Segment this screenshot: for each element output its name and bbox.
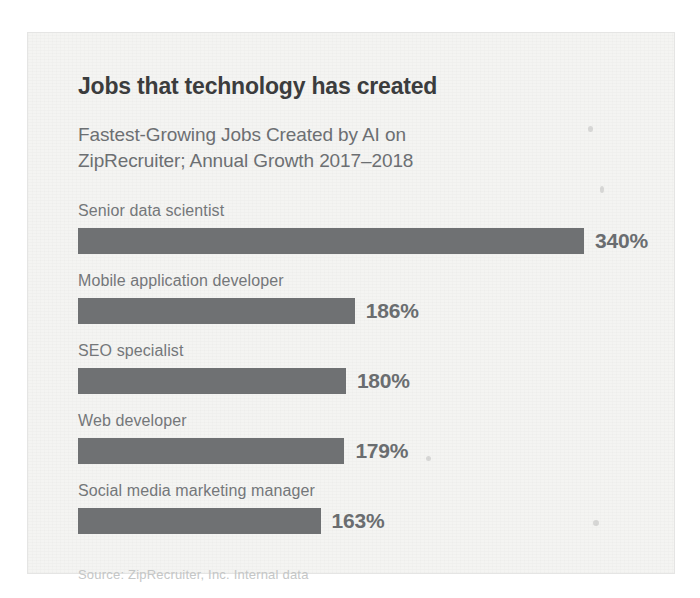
bar-track: 186%: [78, 298, 688, 324]
bar-category-label: Web developer: [78, 412, 688, 430]
bar-fill: [78, 368, 346, 394]
bar-category-label: SEO specialist: [78, 342, 688, 360]
bar-fill: [78, 228, 584, 254]
chart-subtitle-line-1: Fastest-Growing Jobs Created by AI on: [78, 122, 478, 148]
bar-track: 179%: [78, 438, 688, 464]
bar-row: SEO specialist 180%: [78, 342, 688, 412]
bar-chart-plot-area: Senior data scientist 340% Mobile applic…: [78, 202, 688, 552]
bar-category-label: Mobile application developer: [78, 272, 688, 290]
bar-track: 180%: [78, 368, 688, 394]
bar-category-label: Social media marketing manager: [78, 482, 688, 500]
bar-fill: [78, 438, 344, 464]
bar-track: 340%: [78, 228, 688, 254]
bar-value-label: 180%: [357, 369, 410, 393]
bar-value-label: 163%: [332, 509, 385, 533]
bar-row: Mobile application developer 186%: [78, 272, 688, 342]
bar-value-label: 179%: [355, 439, 408, 463]
bar-fill: [78, 298, 355, 324]
chart-content: Jobs that technology has created Fastest…: [78, 73, 688, 593]
chart-subtitle: Fastest-Growing Jobs Created by AI on Zi…: [78, 122, 478, 174]
chart-subtitle-line-2: ZipRecruiter; Annual Growth 2017–2018: [78, 148, 478, 174]
bar-row: Web developer 179%: [78, 412, 688, 482]
scanned-page: Jobs that technology has created Fastest…: [0, 0, 700, 598]
bar-value-label: 340%: [595, 229, 648, 253]
bar-row: Senior data scientist 340%: [78, 202, 688, 272]
chart-card: Jobs that technology has created Fastest…: [28, 33, 674, 573]
bar-track: 163%: [78, 508, 688, 534]
chart-title: Jobs that technology has created: [78, 73, 688, 99]
bar-row: Social media marketing manager 163%: [78, 482, 688, 552]
chart-source-note: Source: ZipRecruiter, Inc. Internal data: [78, 567, 309, 582]
bar-fill: [78, 508, 321, 534]
bar-category-label: Senior data scientist: [78, 202, 688, 220]
bar-value-label: 186%: [366, 299, 419, 323]
